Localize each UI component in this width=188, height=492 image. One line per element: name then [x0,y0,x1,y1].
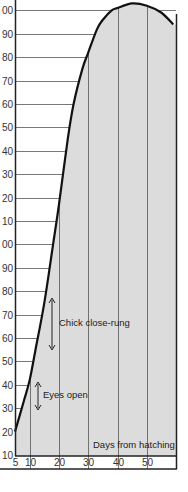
x-tick-label: 10 [25,457,37,468]
y-tick-label: 90 [2,263,14,274]
y-tick-label: 50 [2,356,14,367]
y-tick-label: 80 [2,286,14,297]
x-tick-label: 5 [13,457,19,468]
y-tick-label: 40 [2,146,14,157]
y-tick-label: 00 [2,5,14,16]
y-tick-label: 10 [2,216,14,227]
x-tick-label: 20 [54,457,66,468]
y-tick-label: 50 [2,122,14,133]
growth-chart: 0090807060504030201000908070605040302010… [0,0,188,492]
y-tick-label: 90 [2,29,14,40]
y-tick-label: 10 [2,450,14,461]
y-tick-label: 70 [2,76,14,87]
chick-close-rung-label: Chick close-rung [59,317,130,328]
y-tick-label: 40 [2,380,14,391]
x-tick-label: 30 [83,457,95,468]
y-tick-label: 30 [2,403,14,414]
y-tick-label: 60 [2,99,14,110]
y-tick-label: 80 [2,52,14,63]
eyes-open-label: Eyes open [43,389,88,400]
y-axis-tick-labels: 0090807060504030201000908070605040302010 [2,5,14,461]
y-tick-label: 20 [2,427,14,438]
y-tick-label: 20 [2,193,14,204]
x-axis-tick-labels: 51020304050 [13,457,154,468]
y-tick-label: 00 [2,239,14,250]
y-tick-label: 70 [2,310,14,321]
y-tick-label: 30 [2,169,14,180]
x-tick-label: 40 [113,457,125,468]
growth-area [15,3,176,456]
x-axis-title: Days from hatching [93,439,175,450]
x-tick-label: 50 [142,457,154,468]
y-tick-label: 60 [2,333,14,344]
